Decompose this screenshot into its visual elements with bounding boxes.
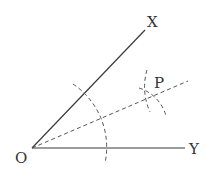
bisector-op	[32, 81, 188, 148]
label-o: O	[15, 149, 27, 167]
label-x: X	[147, 13, 158, 31]
angle-bisector-diagram: X Y P O	[0, 0, 217, 179]
label-y: Y	[188, 140, 200, 158]
arc-center-o	[73, 84, 107, 163]
ray-ox	[32, 30, 145, 148]
label-p: P	[154, 74, 164, 92]
